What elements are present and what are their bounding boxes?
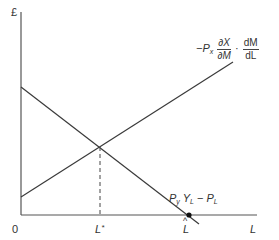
equilibrium-label: L* [95,224,104,235]
yl-sub: L [190,198,194,205]
yl-y: Y [183,192,190,204]
derivative-fraction-num: dM [243,38,259,50]
max-label-hat: ^ [183,217,187,226]
x-axis-label: L [250,224,256,235]
diagram-canvas [0,0,279,240]
y-axis-label: £ [11,7,17,18]
multiply-dot: · [235,42,239,54]
equilibrium-label-sup: * [101,223,104,232]
derivative-fraction-den: dL [245,50,256,61]
minus-sign: − [197,192,203,204]
downward-curve-label: Py YL − PL [169,193,218,205]
upward-line [21,62,233,197]
partial-fraction-num: ∂X [217,38,231,50]
upward-curve-label: −Px ∂X ∂M · dM dL [196,38,260,61]
upward-label-prefix-sub: x [210,48,214,55]
py-sub: y [176,198,180,205]
pl-sub: L [214,198,218,205]
partial-fraction-den: ∂M [218,50,231,61]
derivative-fraction: dM dL [243,38,259,61]
pl-p: P [207,192,214,204]
max-label: ^ L [183,224,189,235]
origin-label: 0 [12,224,18,235]
partial-fraction: ∂X ∂M [217,38,231,61]
upward-label-prefix: −P [196,42,210,54]
